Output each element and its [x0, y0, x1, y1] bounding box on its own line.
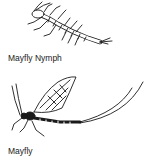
- mayfly-adult-icon: [0, 0, 162, 145]
- adult-caption: Mayfly: [8, 146, 33, 156]
